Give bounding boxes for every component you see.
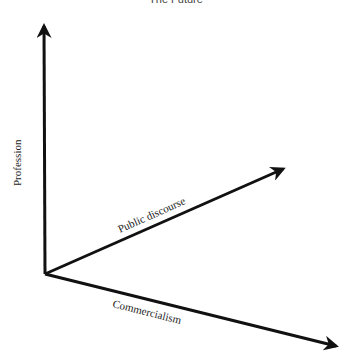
public-discourse-axis [45,169,283,274]
axes-diagram: Profession Public discourse Commercialis… [0,0,352,360]
commercialism-label: Commercialism [112,297,184,326]
commercialism-axis [45,274,336,346]
profession-axis [44,26,45,274]
profession-label: Profession [11,139,23,186]
